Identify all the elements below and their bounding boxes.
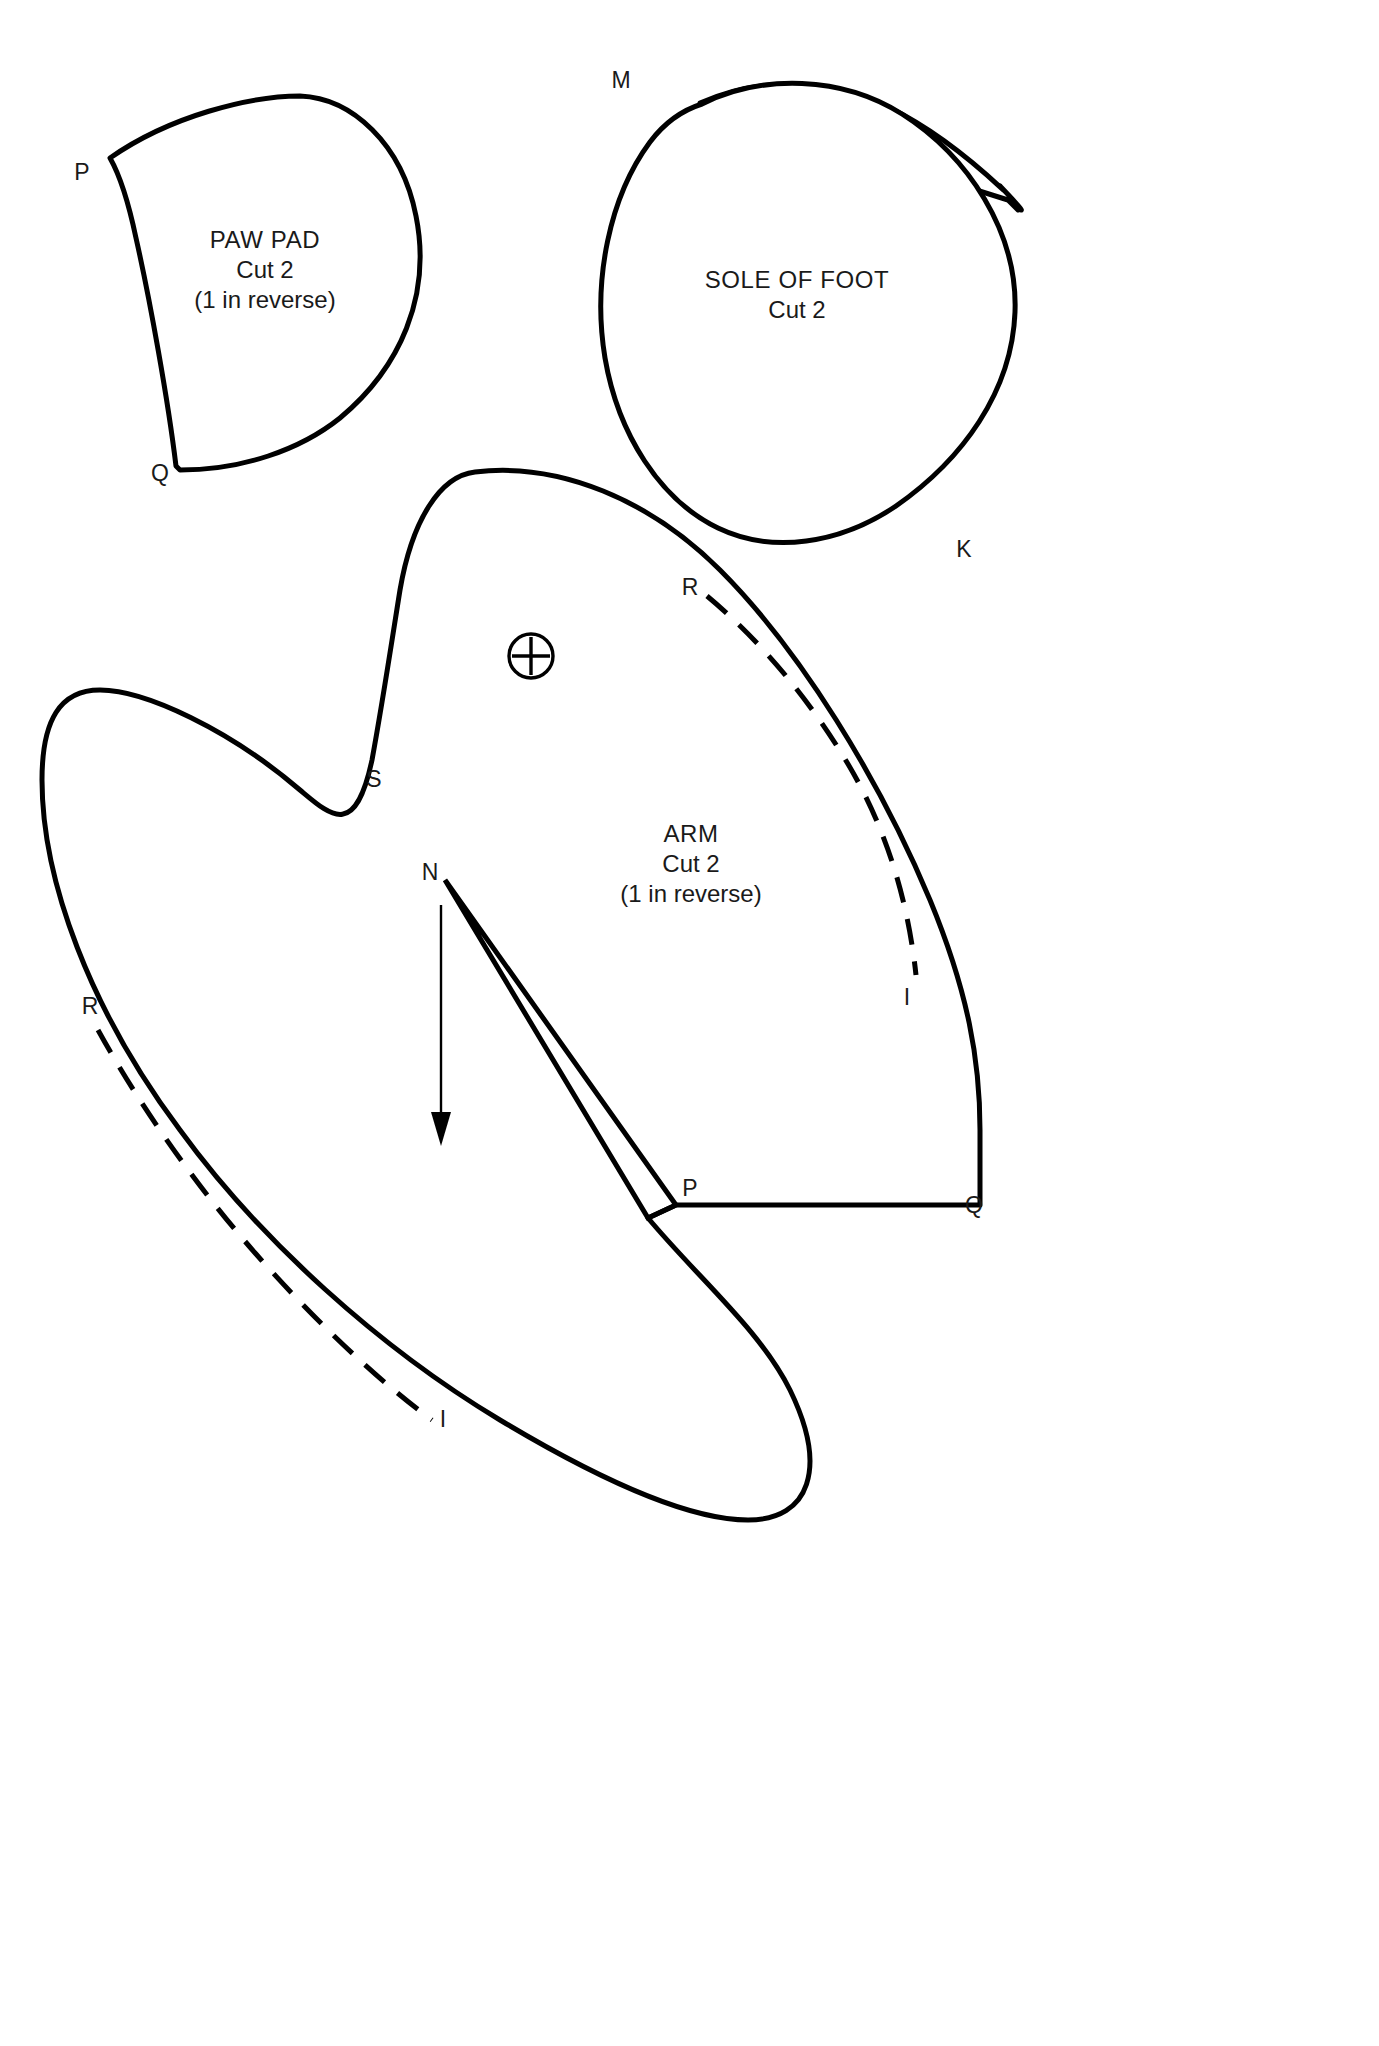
- arm-notch-R-lower: R: [82, 993, 99, 1019]
- arm-notch-R-upper: R: [682, 574, 699, 600]
- paw-pad-cut: Cut 2: [236, 256, 293, 283]
- arm-notch-S: S: [366, 766, 381, 792]
- paw-pad-notch-Q: Q: [151, 460, 169, 486]
- paw-pad-title: PAW PAD: [210, 226, 320, 253]
- arm-notch-I-lower: I: [440, 1406, 446, 1432]
- arm-notch-Q: Q: [965, 1192, 983, 1218]
- sole-title: SOLE OF FOOT: [705, 266, 890, 293]
- arm-note: (1 in reverse): [620, 880, 761, 907]
- arm-title: ARM: [663, 820, 718, 847]
- arm-outline: [42, 470, 980, 1520]
- sole-notch-K: K: [956, 536, 972, 562]
- pattern-sheet: P Q M K R S N I R P Q I PAW PAD Cut 2 (1…: [0, 0, 1379, 2046]
- arm-notch-P: P: [682, 1175, 697, 1201]
- pattern-drawing: P Q M K R S N I R P Q I PAW PAD Cut 2 (1…: [0, 0, 1379, 2046]
- sole-notch-M: M: [611, 67, 630, 93]
- paw-pad-note: (1 in reverse): [194, 286, 335, 313]
- arm-cut: Cut 2: [662, 850, 719, 877]
- piece-arm: [42, 470, 980, 1520]
- piece-paw-pad: [110, 96, 420, 470]
- arm-notch-N: N: [422, 859, 439, 885]
- sole-cut: Cut 2: [768, 296, 825, 323]
- paw-pad-outline: [110, 96, 420, 470]
- arm-notch-I-upper: I: [904, 984, 910, 1010]
- circle-plus-icon: [509, 634, 553, 678]
- paw-pad-notch-P: P: [74, 159, 89, 185]
